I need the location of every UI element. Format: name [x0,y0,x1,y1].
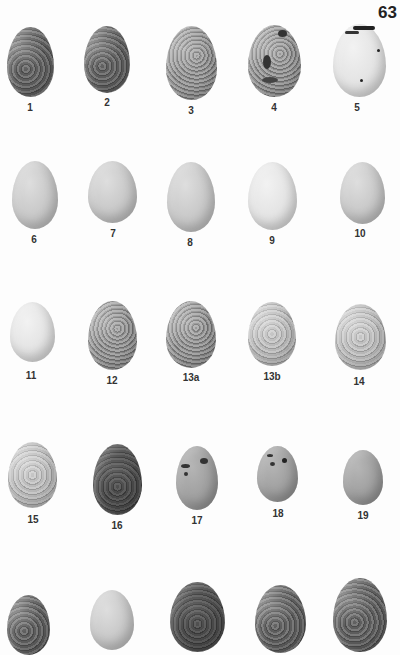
egg-10 [340,162,385,224]
egg-label: 11 [26,370,37,381]
blotch [181,464,190,468]
egg-label: 13a [183,372,200,383]
egg-17 [176,446,218,510]
egg-label: 6 [31,234,37,245]
egg-4 [248,25,301,97]
egg-1 [7,27,54,97]
blotch [270,462,275,466]
egg-19 [343,450,383,505]
egg-label: 2 [104,97,110,108]
egg-label: 3 [188,105,194,116]
egg-label: 4 [271,102,277,113]
egg-label: 7 [110,228,116,239]
egg-2 [84,26,130,93]
blotch [263,55,271,69]
egg-label: 8 [187,237,193,248]
egg-21 [90,590,134,650]
egg-13a [166,301,216,368]
egg-label: 17 [191,515,202,526]
egg-label: 14 [353,376,364,387]
egg-12 [88,301,137,370]
egg-9 [248,162,297,230]
scrawl [353,26,375,30]
egg-23 [255,585,306,653]
egg-16 [93,444,142,515]
egg-label: 1 [27,102,33,113]
egg-5 [333,24,386,97]
egg-label: 16 [111,520,122,531]
egg-11 [10,302,55,362]
egg-label: 9 [269,235,275,246]
egg-6 [12,161,58,229]
egg-label: 12 [106,375,117,386]
egg-14 [335,304,386,370]
egg-22 [170,582,225,652]
egg-18 [257,446,298,502]
egg-3 [166,26,217,100]
egg-label: 18 [272,508,283,519]
spot [377,49,380,52]
egg-label: 10 [354,228,365,239]
blotch [200,458,208,464]
scrawl [345,31,359,34]
egg-label: 13b [263,371,280,382]
blotch [262,77,278,83]
egg-label: 5 [354,102,360,113]
egg-20 [7,595,50,655]
egg-15 [8,442,57,508]
egg-label: 15 [27,514,38,525]
egg-24 [333,578,387,652]
page-number: 63 [378,3,397,23]
egg-7 [88,161,137,223]
egg-8 [167,162,215,232]
egg-13b [248,302,296,366]
blotch [278,30,287,37]
blotch [267,454,273,457]
blotch [282,458,287,463]
egg-label: 19 [357,510,368,521]
blotch [184,472,188,476]
spot [360,79,363,82]
